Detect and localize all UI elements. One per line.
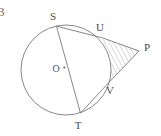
center-point-marker xyxy=(63,67,65,69)
hatched-tangent-region xyxy=(90,25,160,100)
label-point-V: V xyxy=(106,84,114,96)
segment-diameter-ST xyxy=(57,26,81,113)
figure-number-label: 3 xyxy=(0,4,5,19)
label-center-O: O xyxy=(52,63,59,74)
label-point-T: T xyxy=(75,119,82,131)
geometry-figure-svg: S U P V T O 3 xyxy=(0,0,161,136)
geometry-figure-container: S U P V T O 3 xyxy=(0,0,161,136)
segment-chord-TV xyxy=(81,85,107,113)
label-point-U: U xyxy=(96,21,104,33)
main-circle xyxy=(21,25,111,115)
label-point-P: P xyxy=(144,41,150,53)
label-point-S: S xyxy=(50,10,56,22)
